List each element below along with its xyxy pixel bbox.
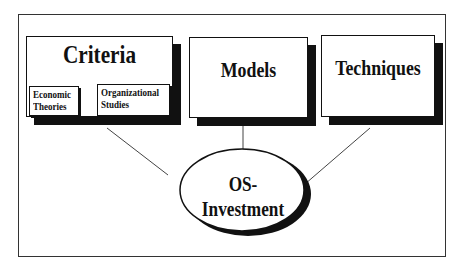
techniques-box: Techniques [321,35,435,117]
models-title: Models [199,58,298,83]
organizational-studies-line1: Organizational [101,87,160,99]
edge-criteria-to-os-investment [107,128,168,175]
edge-techniques-to-os-investment [305,128,370,184]
models-box: Models [189,37,308,118]
os-investment-label: OS-Investment [192,172,294,222]
economic-theories-box: Economic Theories [29,86,79,116]
techniques-title: Techniques [330,56,425,81]
organizational-studies-line2: Studies [101,99,160,111]
organizational-studies-box: Organizational Studies [97,84,170,116]
economic-theories-line1: Economic [33,89,71,101]
criteria-title: Criteria [38,41,161,69]
economic-theories-line2: Theories [33,101,71,113]
